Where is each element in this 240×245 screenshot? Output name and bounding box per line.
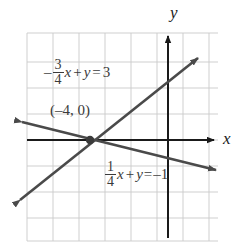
x-axis-label: x [223,130,231,147]
equation-line2-rhs: –1 [153,167,168,182]
intersection-point-dot [86,136,94,144]
equation-line2-numerator: 1 [105,160,116,174]
equation-line1: – 3 4 x + y = 3 [44,58,110,88]
equation-line1-denominator: 4 [53,72,64,87]
equation-line1-y-term: y [84,65,91,80]
equation-line2-y-term: y [136,167,143,182]
equation-line1-rhs: 3 [103,65,111,80]
equation-line2-fraction: 1 4 [105,160,116,190]
equation-line2-plus: + [126,167,134,182]
equation-line1-fraction: 3 4 [53,58,64,88]
equation-line2-variable: x [117,167,124,182]
equation-line1-variable: x [65,65,72,80]
equation-line2-equals: = [144,167,152,182]
equation-line1-equals: = [92,65,100,80]
intersection-point-label: (–4, 0) [50,103,90,118]
equation-line2-denominator: 4 [105,174,116,189]
graph-figure: y x – 3 4 x + y = 3 1 4 x + y = –1 (–4, … [0,0,240,245]
equation-line2: 1 4 x + y = –1 [104,160,168,190]
equation-line1-plus: + [73,65,81,80]
y-axis-label: y [170,4,178,21]
coordinate-plot [0,0,240,245]
equation-line1-sign: – [44,65,52,80]
equation-line1-numerator: 3 [53,58,64,72]
